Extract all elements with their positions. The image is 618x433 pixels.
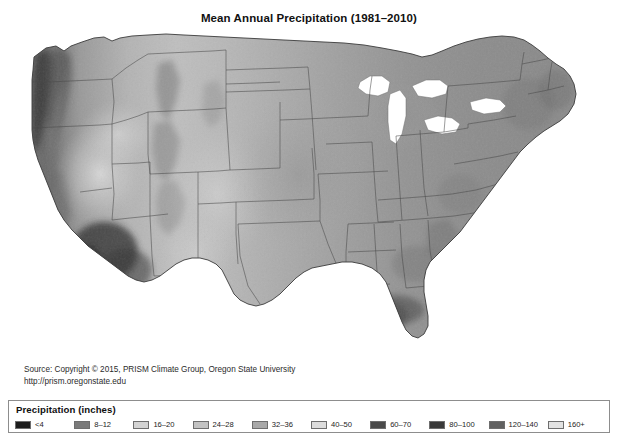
legend-item: <4 <box>15 420 74 429</box>
legend-item: 60–70 <box>370 420 429 429</box>
precipitation-raster <box>8 24 610 354</box>
legend-swatch <box>429 421 445 429</box>
legend-item: 80–100 <box>429 420 488 429</box>
legend-item: 24–28 <box>193 420 252 429</box>
legend-label: 24–28 <box>213 420 234 429</box>
legend-item: 160+ <box>548 420 607 429</box>
legend-label: 40–50 <box>331 420 352 429</box>
legend-swatch <box>74 421 90 429</box>
legend-label: 60–70 <box>390 420 411 429</box>
legend-item: 120–140 <box>489 420 548 429</box>
legend-box: Precipitation (inches) <48–1216–2024–283… <box>8 400 610 433</box>
legend-label: <4 <box>35 420 44 429</box>
page-title: Mean Annual Precipitation (1981–2010) <box>0 12 618 24</box>
legend-swatch <box>193 421 209 429</box>
legend-swatch <box>370 421 386 429</box>
legend-swatch <box>252 421 268 429</box>
legend-swatch <box>133 421 149 429</box>
us-precipitation-map <box>8 24 610 354</box>
legend-label: 80–100 <box>449 420 474 429</box>
legend-label: 32–36 <box>272 420 293 429</box>
legend-swatch <box>311 421 327 429</box>
precipitation-map-figure: Mean Annual Precipitation (1981–2010) <box>0 0 618 433</box>
legend-label: 160+ <box>568 420 585 429</box>
legend-swatch <box>548 421 564 429</box>
source-line-1: Source: Copyright © 2015, PRISM Climate … <box>24 364 444 376</box>
legend-label: 8–12 <box>94 420 111 429</box>
map-canvas <box>8 24 610 354</box>
legend-label: 16–20 <box>153 420 174 429</box>
source-attribution: Source: Copyright © 2015, PRISM Climate … <box>24 364 444 387</box>
legend-label: 120–140 <box>509 420 539 429</box>
legend-item: 8–12 <box>74 420 133 429</box>
legend-items: <48–1216–2024–2832–3640–5060–7080–100120… <box>15 420 607 429</box>
legend-swatch <box>489 421 505 429</box>
legend-item: 40–50 <box>311 420 370 429</box>
legend-item: 16–20 <box>133 420 192 429</box>
legend-item: 32–36 <box>252 420 311 429</box>
legend-title: Precipitation (inches) <box>16 404 116 415</box>
source-line-2: http://prism.oregonstate.edu <box>24 376 444 388</box>
legend-swatch <box>15 421 31 429</box>
